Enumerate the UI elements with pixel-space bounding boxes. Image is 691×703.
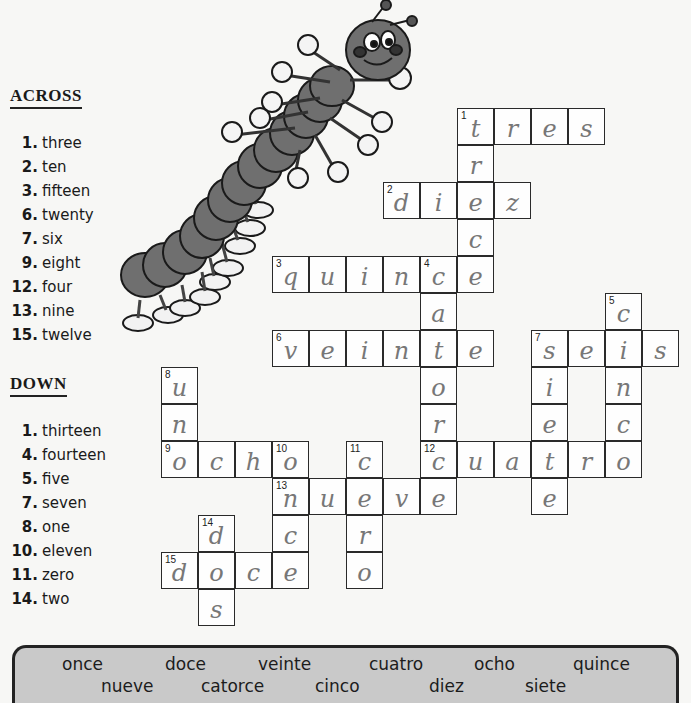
handwritten-letter: e xyxy=(532,411,567,439)
across-clue-3: 3.fifteen xyxy=(10,179,94,203)
grid-cell[interactable]: a xyxy=(420,293,457,330)
grid-cell[interactable]: e xyxy=(531,404,568,441)
word-bank-item: nueve xyxy=(101,676,154,696)
grid-cell[interactable]: s xyxy=(642,330,679,367)
grid-cell[interactable]: 13n xyxy=(272,478,309,515)
grid-cell[interactable]: 1t xyxy=(457,108,494,145)
handwritten-letter: v xyxy=(384,485,419,513)
grid-cell[interactable]: c xyxy=(198,441,235,478)
grid-cell[interactable]: e xyxy=(457,330,494,367)
across-heading: ACROSS xyxy=(10,86,82,109)
grid-cell[interactable]: o xyxy=(346,552,383,589)
grid-cell[interactable]: i xyxy=(420,182,457,219)
grid-cell[interactable]: u xyxy=(309,478,346,515)
grid-cell[interactable]: u xyxy=(309,256,346,293)
grid-cell[interactable]: t xyxy=(531,441,568,478)
grid-cell[interactable]: r xyxy=(568,441,605,478)
grid-cell[interactable]: c xyxy=(272,515,309,552)
handwritten-letter: h xyxy=(236,448,271,476)
grid-cell[interactable]: r xyxy=(420,404,457,441)
handwritten-letter: i xyxy=(347,337,382,365)
grid-cell[interactable]: e xyxy=(346,478,383,515)
grid-cell[interactable]: c xyxy=(457,219,494,256)
down-clue-1: 1.thirteen xyxy=(10,419,106,443)
handwritten-letter: u xyxy=(458,448,493,476)
grid-cell[interactable]: e xyxy=(309,330,346,367)
across-clue-7: 7.six xyxy=(10,227,94,251)
grid-cell[interactable]: 12c xyxy=(420,441,457,478)
grid-cell[interactable]: 10o xyxy=(272,441,309,478)
word-bank-item: diez xyxy=(429,676,464,696)
word-bank: once doce veinte cuatro ocho quince nuev… xyxy=(12,645,679,703)
grid-cell[interactable]: i xyxy=(346,330,383,367)
grid-cell[interactable]: 4c xyxy=(420,256,457,293)
grid-cell[interactable]: i xyxy=(605,330,642,367)
grid-cell[interactable]: i xyxy=(531,367,568,404)
grid-cell[interactable]: e xyxy=(457,182,494,219)
grid-cell[interactable]: h xyxy=(235,441,272,478)
handwritten-letter: r xyxy=(458,152,493,180)
across-clue-6: 6.twenty xyxy=(10,203,94,227)
grid-cell[interactable]: n xyxy=(161,404,198,441)
handwritten-letter: i xyxy=(532,374,567,402)
grid-cell[interactable]: 9o xyxy=(161,441,198,478)
grid-cell[interactable]: o xyxy=(420,367,457,404)
grid-cell[interactable]: 14d xyxy=(198,515,235,552)
grid-cell[interactable]: 5c xyxy=(605,293,642,330)
grid-cell[interactable]: o xyxy=(198,552,235,589)
handwritten-letter: r xyxy=(347,522,382,550)
grid-cell[interactable]: n xyxy=(605,367,642,404)
grid-cell[interactable]: t xyxy=(420,330,457,367)
grid-cell[interactable]: n xyxy=(383,330,420,367)
handwritten-letter: n xyxy=(384,337,419,365)
grid-cell[interactable]: n xyxy=(383,256,420,293)
grid-cell[interactable]: r xyxy=(457,145,494,182)
grid-cell[interactable]: r xyxy=(346,515,383,552)
grid-cell[interactable]: v xyxy=(383,478,420,515)
grid-cell[interactable]: o xyxy=(605,441,642,478)
grid-cell[interactable]: s xyxy=(198,589,235,626)
grid-cell[interactable]: 15d xyxy=(161,552,198,589)
across-clue-list: 1.three 2.ten 3.fifteen 6.twenty 7.six 9… xyxy=(10,131,94,347)
handwritten-letter: e xyxy=(532,115,567,143)
handwritten-letter: r xyxy=(569,448,604,476)
grid-cell[interactable]: e xyxy=(272,552,309,589)
handwritten-letter: i xyxy=(347,263,382,291)
grid-cell[interactable]: e xyxy=(420,478,457,515)
grid-cell[interactable]: e xyxy=(531,478,568,515)
grid-cell[interactable]: u xyxy=(457,441,494,478)
grid-cell[interactable]: e xyxy=(457,256,494,293)
handwritten-letter: v xyxy=(273,337,308,365)
grid-cell[interactable]: s xyxy=(568,108,605,145)
grid-cell[interactable]: e xyxy=(531,108,568,145)
handwritten-letter: e xyxy=(532,485,567,513)
down-heading: DOWN xyxy=(10,374,67,397)
grid-cell[interactable]: e xyxy=(568,330,605,367)
across-clue-12: 12.four xyxy=(10,275,94,299)
grid-cell[interactable]: c xyxy=(605,404,642,441)
grid-cell[interactable]: a xyxy=(494,441,531,478)
handwritten-letter: c xyxy=(458,226,493,254)
across-clue-2: 2.ten xyxy=(10,155,94,179)
handwritten-letter: u xyxy=(310,485,345,513)
grid-cell[interactable]: c xyxy=(235,552,272,589)
handwritten-letter: d xyxy=(199,522,234,550)
handwritten-letter: o xyxy=(199,559,234,587)
across-clue-1: 1.three xyxy=(10,131,94,155)
grid-cell[interactable]: 2d xyxy=(383,182,420,219)
grid-cell[interactable]: 7s xyxy=(531,330,568,367)
grid-cell[interactable]: i xyxy=(346,256,383,293)
grid-cell[interactable]: r xyxy=(494,108,531,145)
across-clues: ACROSS 1.three 2.ten 3.fifteen 6.twenty … xyxy=(10,86,94,347)
grid-cell[interactable]: 3q xyxy=(272,256,309,293)
handwritten-letter: e xyxy=(458,337,493,365)
grid-cell[interactable]: z xyxy=(494,182,531,219)
handwritten-letter: t xyxy=(421,337,456,365)
grid-cell[interactable]: 6v xyxy=(272,330,309,367)
grid-cell[interactable]: 8u xyxy=(161,367,198,404)
handwritten-letter: o xyxy=(421,374,456,402)
grid-cell[interactable]: 11c xyxy=(346,441,383,478)
word-bank-item: once xyxy=(62,654,103,674)
handwritten-letter: c xyxy=(606,300,641,328)
handwritten-letter: d xyxy=(162,559,197,587)
